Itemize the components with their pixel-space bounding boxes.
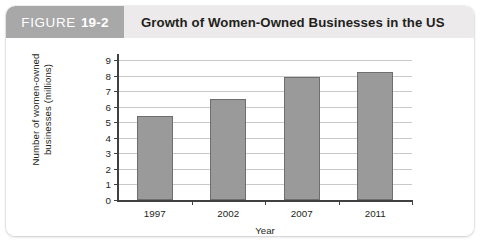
y-tick-label: 1 bbox=[106, 179, 111, 190]
y-axis-title: Number of women-owned businesses (millio… bbox=[30, 35, 53, 185]
gridline bbox=[118, 60, 412, 61]
y-tick-label: 0 bbox=[106, 195, 111, 206]
bar bbox=[137, 116, 173, 200]
y-tick-label: 8 bbox=[106, 70, 111, 81]
y-tick-label: 4 bbox=[106, 132, 111, 143]
x-tick-label: 2011 bbox=[365, 208, 386, 219]
y-tick-label: 9 bbox=[106, 55, 111, 66]
plot-area: 0123456789 1997200220072011 Year bbox=[118, 60, 412, 200]
x-tick-label: 1997 bbox=[144, 208, 166, 219]
x-axis-title: Year bbox=[118, 225, 412, 236]
x-tick-label: 2002 bbox=[217, 208, 239, 219]
bar bbox=[357, 72, 393, 200]
figure-badge-word: FIGURE bbox=[21, 15, 76, 30]
figure-badge-number: 19-2 bbox=[81, 15, 109, 30]
figure-header: FIGURE 19-2 Growth of Women-Owned Busine… bbox=[6, 6, 474, 38]
y-tick-label: 6 bbox=[106, 101, 111, 112]
x-axis-line bbox=[117, 200, 413, 202]
figure-badge: FIGURE 19-2 bbox=[6, 6, 124, 38]
figure-card: FIGURE 19-2 Growth of Women-Owned Busine… bbox=[6, 6, 474, 236]
x-tick-label: 2007 bbox=[291, 208, 313, 219]
y-tick-label: 7 bbox=[106, 86, 111, 97]
y-tick-label: 3 bbox=[106, 148, 111, 159]
bar bbox=[210, 99, 246, 200]
chart-region: Number of women-owned businesses (millio… bbox=[6, 38, 474, 236]
y-tick-label: 2 bbox=[106, 163, 111, 174]
bar bbox=[284, 77, 320, 200]
y-axis-line bbox=[117, 54, 119, 200]
y-tick-label: 5 bbox=[106, 117, 111, 128]
figure-title: Growth of Women-Owned Businesses in the … bbox=[124, 6, 474, 38]
